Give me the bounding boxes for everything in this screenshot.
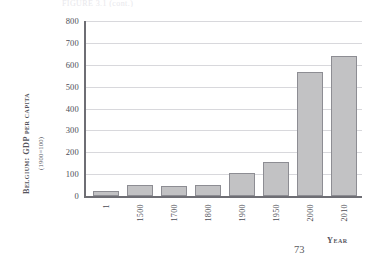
plot-area: 0100200300400500600700800 11500170018001… (84, 21, 362, 198)
y-axis-tick-label: 600 (66, 60, 79, 70)
x-axis-tick-label: 1500 (135, 204, 144, 222)
x-axis-tick: 1800 (195, 202, 220, 248)
gridline (86, 21, 362, 22)
bar (263, 162, 288, 196)
y-axis-tick-label: 700 (66, 38, 79, 48)
bar (331, 56, 356, 196)
y-axis-tick-label: 500 (66, 82, 79, 92)
x-axis-tick: 1900 (229, 202, 254, 248)
bar (195, 185, 220, 196)
y-axis-title: Belgium: GDP per capita (1900=100) (4, 22, 50, 198)
bar (127, 185, 152, 196)
y-axis-tick-label: 300 (66, 125, 79, 135)
x-axis-tick-label: 1800 (203, 204, 212, 222)
x-axis-tick-label: 2010 (339, 204, 348, 222)
x-axis-title: Year (327, 236, 348, 245)
x-axis-line (84, 196, 362, 198)
gridline (86, 43, 362, 44)
bar (229, 173, 254, 196)
y-axis-title-sub: (1900=100) (37, 137, 44, 170)
x-axis-tick-label: 1700 (169, 204, 178, 222)
bar (297, 72, 322, 196)
x-axis-tick: 1500 (127, 202, 152, 248)
x-axis-tick: 2000 (297, 202, 322, 248)
gridline (86, 65, 362, 66)
x-axis-tick-label: 1900 (237, 204, 246, 222)
bar (161, 186, 186, 196)
bar (93, 191, 118, 196)
x-axis-tick-label: 1 (101, 204, 110, 208)
y-axis-line (84, 21, 86, 198)
x-axis-tick: 1950 (263, 202, 288, 248)
caption-sliver: FIGURE 3.1 (cont.) (62, 0, 182, 7)
y-axis-tick-label: 800 (66, 16, 79, 26)
y-axis-tick-label: 200 (66, 147, 79, 157)
x-axis-tick-label: 1950 (271, 204, 280, 222)
y-axis-tick-label: 100 (66, 169, 79, 179)
x-axis-tick: 1 (93, 202, 118, 248)
x-axis-tick: 1700 (161, 202, 186, 248)
page-number: 73 (294, 244, 305, 255)
y-axis-title-main: Belgium: GDP per capita (22, 93, 31, 194)
y-axis-tick-label: 400 (66, 104, 79, 114)
y-axis-tick-label: 0 (75, 191, 79, 201)
x-axis-tick-label: 2000 (305, 204, 314, 222)
